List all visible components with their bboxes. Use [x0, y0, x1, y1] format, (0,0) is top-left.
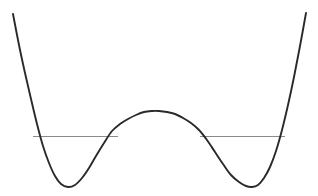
figure-canvas: [0, 0, 318, 196]
double-well-potential-chart: [0, 0, 318, 196]
